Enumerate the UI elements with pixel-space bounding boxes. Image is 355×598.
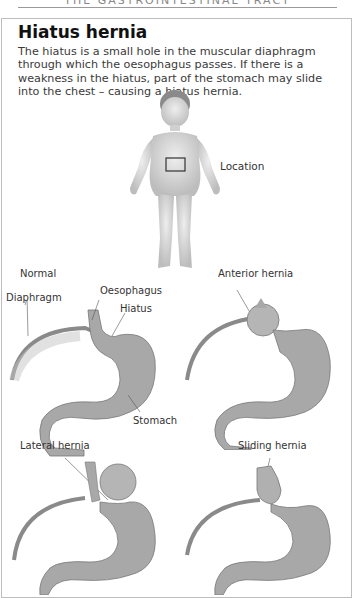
lateral-hernia-illustration [0, 450, 180, 595]
anterior-hernia-illustration [175, 280, 355, 450]
location-box [165, 157, 187, 173]
normal-stomach-illustration [0, 300, 180, 460]
panel-title-anterior: Anterior hernia [218, 268, 293, 279]
child-figure-illustration [120, 88, 230, 278]
location-label: Location [220, 160, 264, 172]
label-oesophagus: Oesophagus [100, 285, 162, 296]
running-header: THE GASTROINTESTINAL TRACT [20, 0, 335, 7]
panel-title-normal: Normal [20, 268, 56, 279]
sliding-hernia-illustration [175, 450, 355, 595]
page-title: Hiatus hernia [18, 22, 147, 42]
header-rule [18, 7, 337, 8]
